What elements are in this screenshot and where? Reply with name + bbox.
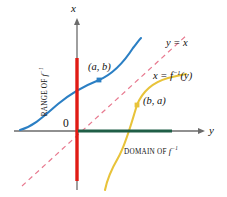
domain-of-inverse-label-text: DOMAIN OF xyxy=(124,148,169,156)
domain-of-inverse-label: DOMAIN OF f−1 xyxy=(124,147,178,156)
vertical-axis-label: x xyxy=(71,3,76,14)
point-marker-b-a xyxy=(135,103,140,108)
point-label-a-b: (a, b) xyxy=(88,62,111,73)
range-of-inverse-label: RANGE OF f−1 xyxy=(40,67,49,116)
domain-of-inverse-label-fn: f−1 xyxy=(169,146,178,156)
inverse-function-label: x = f−1(y) xyxy=(153,71,192,82)
inverse-function-label-exponent: −1 xyxy=(173,69,181,76)
range-of-inverse-label-text: RANGE OF xyxy=(41,76,49,116)
inverse-function-label-base: x = f xyxy=(153,70,173,81)
range-of-inverse-label-fn: f−1 xyxy=(39,67,49,76)
point-marker-a-b xyxy=(97,78,102,83)
origin-label: 0 xyxy=(63,118,69,130)
diagram-canvas xyxy=(0,0,227,197)
inverse-function-diagram: x y 0 y = x x = f−1(y) (a, b) (b, a) RAN… xyxy=(0,0,227,197)
range-fn-exponent: −1 xyxy=(38,67,44,74)
inverse-function-label-arg: (y) xyxy=(181,70,193,81)
horizontal-axis-label: y xyxy=(209,125,214,136)
identity-line-label: y = x xyxy=(166,38,188,49)
domain-fn-exponent: −1 xyxy=(171,145,178,151)
blue-curve xyxy=(20,38,141,130)
point-label-b-a: (b, a) xyxy=(143,96,166,107)
